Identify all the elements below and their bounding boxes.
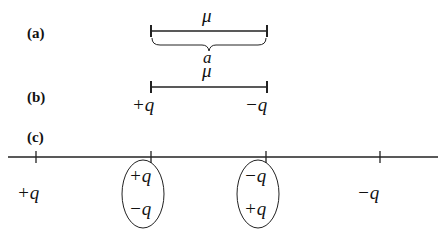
panel-c-label: (c) bbox=[27, 129, 44, 146]
ellipse-left-bottom-charge: −q bbox=[129, 198, 152, 219]
ellipse-left-top-charge: +q bbox=[129, 165, 152, 186]
outer-left-charge: +q bbox=[17, 182, 40, 203]
ellipse-right-top-charge: −q bbox=[244, 165, 267, 186]
positive-charge-label: +q bbox=[132, 94, 155, 115]
negative-charge-label: −q bbox=[245, 94, 268, 115]
panel-a-label: (a) bbox=[27, 25, 45, 42]
dipole-moment-symbol: μ bbox=[201, 5, 212, 26]
panel-b-label: (b) bbox=[27, 89, 45, 106]
dipole-moment-symbol: μ bbox=[201, 60, 212, 81]
ellipse-right-bottom-charge: +q bbox=[244, 198, 267, 219]
panel-c: (c) +q +q −q −q +q −q bbox=[8, 129, 438, 228]
outer-right-charge: −q bbox=[357, 182, 380, 203]
dipole-diagram: (a) μ a (b) μ +q −q (c) +q +q −q −q +q −… bbox=[0, 0, 446, 235]
panel-a: (a) μ a bbox=[27, 5, 267, 67]
panel-b: (b) μ +q −q bbox=[27, 60, 268, 115]
